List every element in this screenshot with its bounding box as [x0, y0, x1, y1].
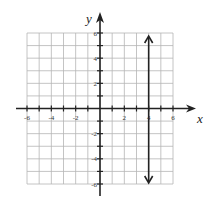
x-tick-label: -6	[24, 114, 30, 122]
x-tick-label: -4	[48, 114, 54, 122]
x-axis-title: x	[196, 111, 203, 126]
y-axis-title: y	[84, 11, 92, 26]
x-tick-label: -2	[73, 114, 79, 122]
y-tick-label: -6	[91, 181, 97, 189]
y-tick-label: 6	[94, 30, 98, 38]
coordinate-plane: -6-4-2246642-2-4-6 x y	[0, 0, 208, 212]
y-tick-label: -4	[91, 155, 97, 163]
x-tick-label: 6	[171, 114, 175, 122]
x-tick-label: 4	[147, 114, 151, 122]
y-tick-label: -2	[91, 130, 97, 138]
y-tick-label: 4	[94, 55, 98, 63]
y-tick-label: 2	[94, 80, 98, 88]
x-tick-label: 2	[123, 114, 127, 122]
axes	[16, 12, 196, 196]
